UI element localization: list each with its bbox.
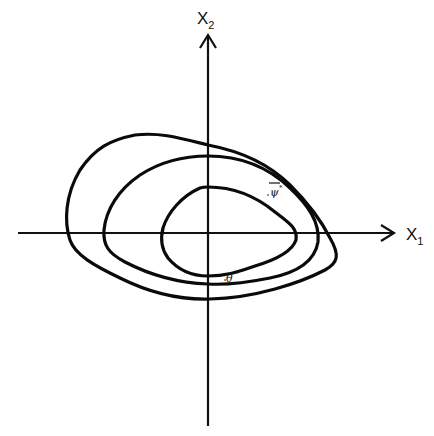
psi-symbol: ψ bbox=[270, 186, 279, 199]
x1-axis bbox=[18, 225, 394, 241]
theta-symbol: θ bbox=[226, 272, 233, 285]
theta-superscript: * bbox=[235, 270, 239, 278]
x2-axis bbox=[200, 35, 216, 426]
phase-diagram: X2 X1 ψ * θ * bbox=[0, 0, 434, 436]
psi-dot bbox=[267, 194, 269, 196]
psi-superscript: * bbox=[279, 184, 283, 192]
x1-axis-label: X1 bbox=[406, 225, 423, 247]
x2-axis-label: X2 bbox=[197, 9, 214, 31]
psi-star-annotation: ψ * bbox=[267, 183, 283, 199]
inner-closed-curve bbox=[162, 187, 297, 276]
theta-dot bbox=[224, 279, 226, 281]
